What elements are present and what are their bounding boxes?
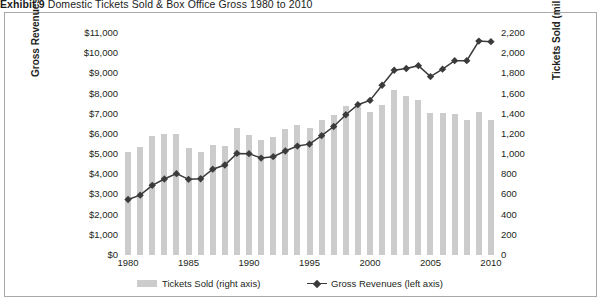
x-axis-tick-2005: 2005 [420, 258, 441, 268]
right-axis-tick-400: 400 [501, 210, 517, 220]
left-axis-tick-10000: $10,000 [84, 48, 118, 58]
marker-1985 [185, 176, 192, 183]
right-axis-title: Tickets Sold (mil. #) [551, 0, 562, 80]
right-axis-tick-2200: 2,200 [501, 28, 525, 38]
plot-area [122, 33, 497, 255]
marker-2009 [475, 37, 482, 44]
gross-revenues-polyline [128, 41, 491, 199]
legend-line-swatch-icon [307, 279, 327, 288]
left-axis-tick-9000: $9,000 [89, 68, 118, 78]
x-axis-tick-2000: 2000 [359, 258, 380, 268]
right-axis-tick-800: 800 [501, 169, 517, 179]
right-axis-ticks: 02004006008001,0001,2001,4001,6001,8002,… [501, 0, 549, 305]
x-axis-tick-1980: 1980 [117, 258, 138, 268]
right-axis-tick-1600: 1,600 [501, 89, 525, 99]
marker-1990 [245, 150, 252, 157]
marker-1984 [173, 170, 180, 177]
left-axis-tick-0: $0 [107, 250, 118, 260]
left-axis-tick-3000: $3,000 [89, 189, 118, 199]
marker-1980 [124, 196, 131, 203]
marker-2010 [487, 38, 494, 45]
right-axis-tick-0: 0 [501, 250, 506, 260]
legend-label-gross-revenues: Gross Revenues (left axis) [331, 278, 443, 289]
left-axis-ticks: $0$1,000$2,000$3,000$4,000$5,000$6,000$7… [44, 0, 118, 305]
right-axis-tick-2000: 2,000 [501, 48, 525, 58]
right-axis-tick-600: 600 [501, 189, 517, 199]
right-axis-tick-1800: 1,800 [501, 68, 525, 78]
x-axis-tick-1995: 1995 [299, 258, 320, 268]
legend-item-gross-revenues: Gross Revenues (left axis) [307, 278, 443, 289]
marker-2008 [463, 57, 470, 64]
gross-revenues-line [122, 33, 497, 255]
marker-1991 [257, 154, 264, 161]
x-axis-tick-2010: 2010 [480, 258, 501, 268]
left-axis-tick-7000: $7,000 [89, 109, 118, 119]
left-axis-tick-4000: $4,000 [89, 169, 118, 179]
marker-1993 [282, 147, 289, 154]
left-axis-tick-8000: $8,000 [89, 89, 118, 99]
left-axis-tick-1000: $1,000 [89, 230, 118, 240]
x-axis-tick-1990: 1990 [238, 258, 259, 268]
right-axis-tick-200: 200 [501, 230, 517, 240]
left-axis-title: Gross Revenues (mil. $) [30, 0, 41, 77]
x-axis-tick-1985: 1985 [178, 258, 199, 268]
left-axis-tick-6000: $6,000 [89, 129, 118, 139]
marker-1992 [270, 153, 277, 160]
marker-2003 [403, 65, 410, 72]
marker-1983 [161, 175, 168, 182]
left-axis-tick-5000: $5,000 [89, 149, 118, 159]
marker-1994 [294, 142, 301, 149]
left-axis-tick-11000: $11,000 [84, 28, 118, 38]
legend-bar-swatch-icon [137, 280, 157, 287]
legend-label-tickets-sold: Tickets Sold (right axis) [162, 278, 260, 289]
right-axis-tick-1200: 1,200 [501, 129, 525, 139]
chart-legend: Tickets Sold (right axis) Gross Revenues… [0, 278, 608, 292]
legend-item-tickets-sold: Tickets Sold (right axis) [137, 278, 260, 289]
right-axis-tick-1000: 1,000 [501, 149, 525, 159]
left-axis-tick-2000: $2,000 [89, 210, 118, 220]
right-axis-tick-1400: 1,400 [501, 109, 525, 119]
